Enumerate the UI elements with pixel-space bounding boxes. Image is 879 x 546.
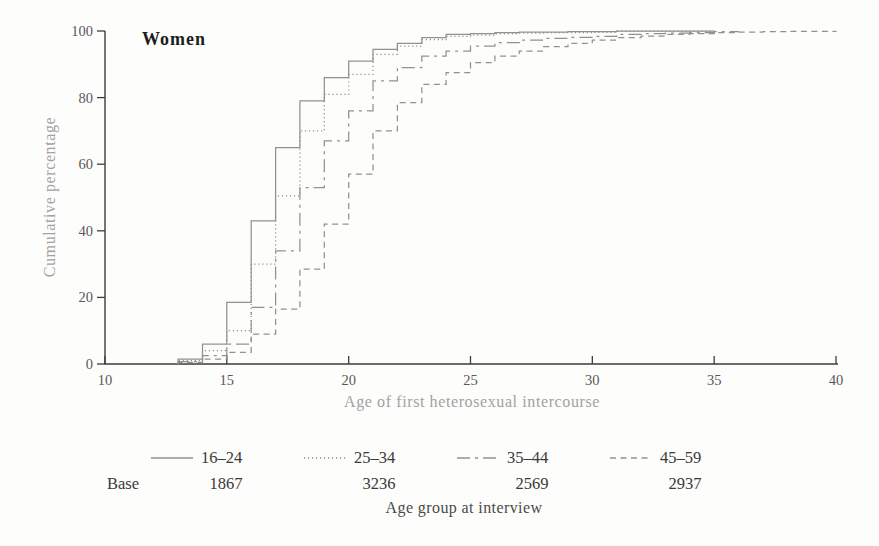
svg-text:20: 20 [341,372,356,388]
legend-item: 35–44 [456,448,609,468]
base-value-cell: 2937 [609,474,762,494]
svg-text:15: 15 [220,372,235,388]
legend-item: 25–34 [303,448,456,468]
base-value-cell: 3236 [303,474,456,494]
svg-text:40: 40 [79,223,94,239]
x-axis-title: Age of first heterosexual intercourse [344,393,600,411]
base-value: 1867 [194,474,258,494]
y-axis-title: Cumulative percentage [41,117,59,278]
axis-tick-labels: 10152025303540020406080100 [71,23,843,388]
base-value: 2937 [653,474,717,494]
figure-page: 10152025303540020406080100 Women Age of … [0,0,879,546]
base-values: 1867 3236 2569 2937 [0,474,762,494]
axis-ticks [97,31,836,364]
legend-item: 16–24 [150,448,303,468]
svg-text:30: 30 [585,372,600,388]
base-value: 3236 [347,474,411,494]
svg-text:60: 60 [79,156,94,172]
svg-text:35: 35 [707,372,722,388]
chart-title: Women [142,29,206,49]
svg-text:40: 40 [829,372,844,388]
base-value: 2569 [500,474,564,494]
base-value-cell: 2569 [456,474,609,494]
series-45–59 [178,31,836,364]
legend-title: Age group at interview [386,499,543,517]
axes [105,31,838,364]
step-curves [178,31,836,364]
svg-text:20: 20 [79,289,94,305]
line-sample-icon [456,451,500,465]
legend: 16–24 25–34 35–44 45–59 [0,448,762,468]
svg-text:25: 25 [463,372,478,388]
series-35–44 [178,31,738,364]
legend-label: 45–59 [660,448,701,468]
svg-text:100: 100 [71,23,93,39]
line-sample-icon [609,451,653,465]
svg-text:0: 0 [86,356,93,372]
legend-item: 45–59 [609,448,762,468]
line-sample-icon [303,451,347,465]
svg-text:80: 80 [79,90,94,106]
legend-label: 25–34 [354,448,395,468]
svg-text:10: 10 [98,372,113,388]
cumulative-percentage-chart: 10152025303540020406080100 Women Age of … [0,0,879,435]
legend-label: 16–24 [201,448,242,468]
base-value-cell: 1867 [150,474,303,494]
line-sample-icon [150,451,194,465]
legend-label: 35–44 [507,448,548,468]
